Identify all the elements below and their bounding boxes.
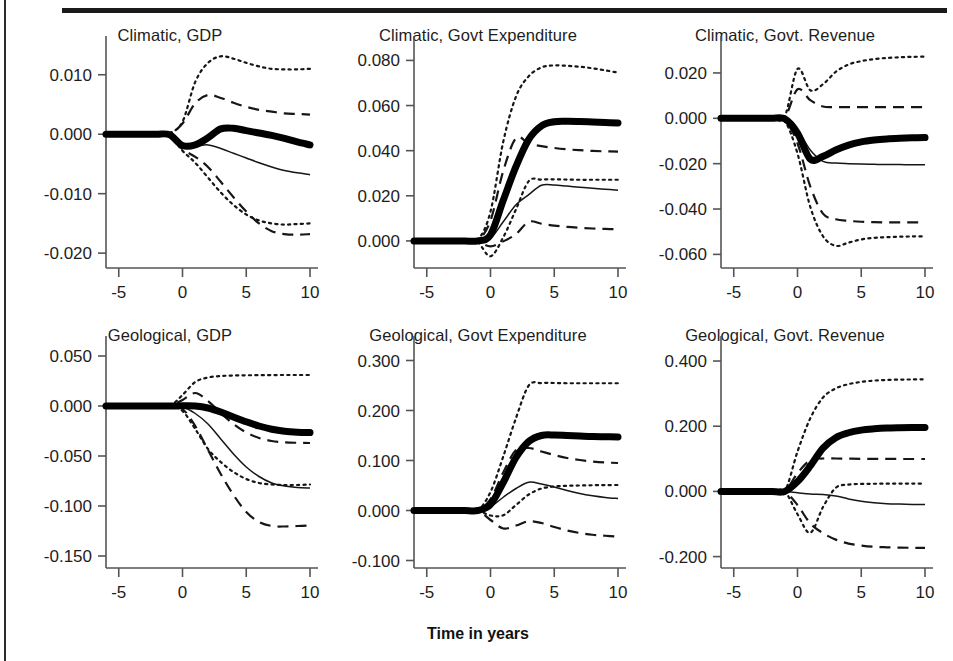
y-tick-label: 0.020 (357, 187, 400, 206)
series-line (106, 134, 310, 235)
x-tick-label: 0 (486, 583, 495, 602)
series-line (106, 128, 310, 147)
y-tick-label: 0.050 (49, 347, 92, 366)
plot-area: 0.4000.2000.000-0.200-50510 (625, 322, 945, 612)
y-tick-label: 0.080 (357, 51, 400, 70)
series-line (721, 118, 925, 223)
y-tick-label: 0.100 (357, 452, 400, 471)
plot-area: 0.0500.000-0.050-0.100-0.150-50510 (10, 322, 330, 612)
panel-geological-govt-expenditure: Geological, Govt Expenditure 0.3000.2000… (318, 322, 638, 612)
series-line (414, 179, 618, 257)
x-tick-label: 5 (242, 583, 251, 602)
series-line (414, 482, 618, 511)
y-tick-label: -0.040 (659, 200, 707, 219)
y-tick-label: -0.020 (44, 244, 92, 263)
y-tick-label: -0.200 (659, 548, 707, 567)
series-line (414, 435, 618, 511)
series-line (106, 406, 310, 485)
y-tick-label: 0.000 (357, 502, 400, 521)
figure-root: Climatic, GDP 0.0100.000-0.010-0.020-505… (0, 0, 953, 661)
x-tick-label: 0 (486, 283, 495, 302)
panel-geological-govt-revenue: Geological, Govt. Revenue 0.4000.2000.00… (625, 322, 945, 612)
panel-climatic-gdp: Climatic, GDP 0.0100.000-0.010-0.020-505… (10, 22, 330, 312)
x-tick-label: 5 (857, 583, 866, 602)
y-tick-label: -0.060 (659, 245, 707, 264)
x-tick-label: 0 (178, 583, 187, 602)
header-rule (62, 8, 947, 13)
y-tick-label: 0.060 (357, 97, 400, 116)
page-edge-line (4, 0, 6, 661)
x-tick-label: 10 (301, 583, 320, 602)
x-tick-label: 5 (857, 283, 866, 302)
y-tick-label: 0.000 (49, 397, 92, 416)
x-tick-label: -5 (726, 583, 741, 602)
x-tick-label: 5 (550, 583, 559, 602)
panel-climatic-govt-expenditure: Climatic, Govt Expenditure 0.0800.0600.0… (318, 22, 638, 312)
y-tick-label: 0.000 (49, 125, 92, 144)
series-line (106, 134, 310, 225)
x-tick-label: 0 (178, 283, 187, 302)
y-tick-label: -0.050 (44, 447, 92, 466)
series-line (721, 118, 925, 161)
series-line (721, 379, 925, 494)
y-tick-label: -0.010 (44, 185, 92, 204)
panel-geological-gdp: Geological, GDP 0.0500.000-0.050-0.100-0… (10, 322, 330, 612)
x-tick-label: -5 (111, 583, 126, 602)
series-line (106, 95, 310, 135)
x-tick-label: 10 (916, 283, 935, 302)
y-tick-label: 0.000 (664, 482, 707, 501)
y-tick-label: -0.100 (44, 497, 92, 516)
y-tick-label: 0.000 (664, 109, 707, 128)
y-tick-label: -0.150 (44, 547, 92, 566)
series-line (106, 406, 310, 488)
x-tick-label: -5 (419, 283, 434, 302)
y-tick-label: 0.040 (357, 142, 400, 161)
series-line (721, 57, 925, 121)
x-tick-label: 10 (916, 583, 935, 602)
plot-area: 0.3000.2000.1000.000-0.100-50510 (318, 322, 638, 612)
plot-area: 0.0100.000-0.010-0.020-50510 (10, 22, 330, 312)
y-tick-label: 0.400 (664, 352, 707, 371)
y-tick-label: -0.020 (659, 155, 707, 174)
x-tick-label: 0 (793, 583, 802, 602)
x-tick-label: -5 (726, 283, 741, 302)
series-line (414, 137, 618, 242)
y-tick-label: 0.200 (664, 417, 707, 436)
series-line (414, 184, 618, 241)
y-tick-label: 0.010 (49, 66, 92, 85)
x-tick-label: -5 (111, 283, 126, 302)
x-axis-label: Time in years (318, 625, 638, 643)
x-tick-label: 5 (550, 283, 559, 302)
series-line (721, 490, 925, 547)
x-tick-label: 10 (301, 283, 320, 302)
series-line (414, 121, 618, 241)
series-line (106, 56, 310, 134)
plot-area: 0.0200.000-0.020-0.040-0.060-50510 (625, 22, 945, 312)
panel-climatic-govt-revenue: Climatic, Govt. Revenue 0.0200.000-0.020… (625, 22, 945, 312)
y-tick-label: 0.300 (357, 352, 400, 371)
plot-area: 0.0800.0600.0400.0200.000-50510 (318, 22, 638, 312)
x-tick-label: -5 (419, 583, 434, 602)
series-line (106, 406, 310, 433)
series-line (414, 382, 618, 512)
y-tick-label: -0.100 (352, 552, 400, 571)
y-tick-label: 0.020 (664, 64, 707, 83)
series-line (414, 65, 618, 242)
x-tick-label: 0 (793, 283, 802, 302)
x-tick-label: 5 (242, 283, 251, 302)
series-line (721, 458, 925, 492)
y-tick-label: 0.200 (357, 402, 400, 421)
series-line (106, 393, 310, 443)
y-tick-label: 0.000 (357, 232, 400, 251)
